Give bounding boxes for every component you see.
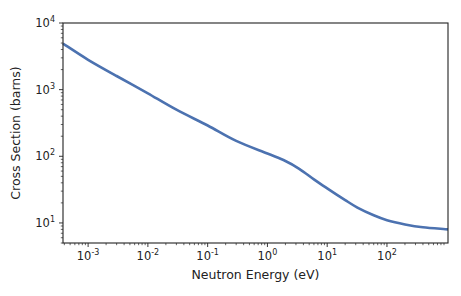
chart: 10-310-210-1100101102101102103104 Neutro… <box>0 0 461 296</box>
x-tick-label: 100 <box>258 248 278 263</box>
x-axis-label: Neutron Energy (eV) <box>191 267 319 282</box>
y-axis-label: Cross Section (barns) <box>8 66 23 199</box>
y-tick-label: 104 <box>35 15 55 30</box>
x-tick-label: 102 <box>377 248 397 263</box>
tick-labels: 10-310-210-1100101102101102103104 <box>35 15 397 263</box>
minor-ticks <box>61 26 444 245</box>
x-tick-label: 10-2 <box>137 248 160 263</box>
y-tick-label: 102 <box>35 148 55 163</box>
y-tick-label: 103 <box>35 82 55 97</box>
x-tick-label: 101 <box>317 248 337 263</box>
cross-section-plot: 10-310-210-1100101102101102103104 Neutro… <box>0 0 461 296</box>
x-tick-label: 10-3 <box>77 248 100 263</box>
data-line <box>63 44 448 230</box>
x-tick-label: 10-1 <box>196 248 219 263</box>
plot-frame <box>63 23 448 243</box>
y-tick-label: 101 <box>35 215 55 230</box>
